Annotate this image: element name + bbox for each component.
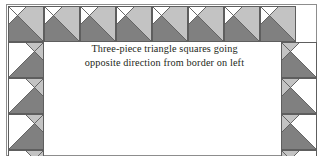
triangle-square-right-1 — [281, 42, 317, 78]
triangle-square-top-8 — [260, 6, 296, 42]
top-border-row — [8, 6, 317, 42]
triangle-square-top-7 — [224, 6, 260, 42]
caption-line-1: Three-piece triangle squares going — [52, 42, 277, 56]
triangle-square-right-3 — [281, 114, 317, 150]
triangle-square-top-6 — [188, 6, 224, 42]
triangle-square-right-4 — [281, 150, 317, 156]
left-border-column — [8, 42, 44, 156]
triangle-square-left-2 — [8, 78, 44, 114]
quilt-diagram-canvas: Three-piece triangle squares going oppos… — [0, 0, 325, 156]
right-border-column — [281, 42, 317, 156]
triangle-square-top-2 — [44, 6, 80, 42]
triangle-square-left-4 — [8, 150, 44, 156]
triangle-square-top-5 — [152, 6, 188, 42]
triangle-square-top-1 — [8, 6, 44, 42]
caption-line-2: opposite direction from border on left — [52, 56, 277, 70]
triangle-square-left-3 — [8, 114, 44, 150]
triangle-square-top-4 — [116, 6, 152, 42]
caption-text: Three-piece triangle squares going oppos… — [52, 42, 277, 70]
triangle-square-left-1 — [8, 42, 44, 78]
triangle-square-right-2 — [281, 78, 317, 114]
triangle-square-top-3 — [80, 6, 116, 42]
